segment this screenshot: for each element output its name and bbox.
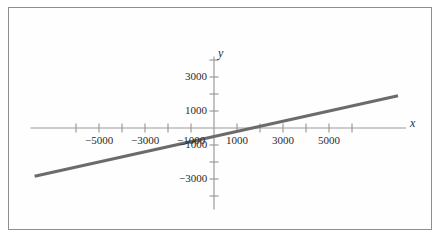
y-tick-label: −1000 bbox=[179, 139, 207, 150]
x-tick-label: −3000 bbox=[131, 135, 159, 146]
y-axis-label: y bbox=[218, 47, 223, 59]
x-tick-label: 5000 bbox=[318, 135, 340, 146]
graph-canvas bbox=[0, 0, 441, 244]
y-tick-label: 3000 bbox=[185, 71, 207, 82]
y-tick-label: −3000 bbox=[179, 173, 207, 184]
x-axis-label: x bbox=[410, 117, 415, 129]
figure-container: −5000−3000−100010003000500030001000−1000… bbox=[0, 0, 441, 244]
x-tick-label: 1000 bbox=[226, 135, 248, 146]
y-tick-label: 1000 bbox=[185, 105, 207, 116]
x-tick-label: 3000 bbox=[272, 135, 294, 146]
x-tick-label: −5000 bbox=[85, 135, 113, 146]
